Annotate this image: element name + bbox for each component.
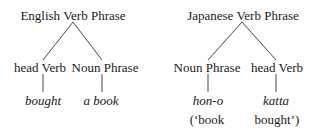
english-word-bought: bought — [25, 94, 61, 108]
japanese-root-label: Japanese Verb Phrase — [187, 9, 299, 23]
japanese-headverb-label: head Verb — [251, 61, 303, 75]
edge-japanese-root-headverb — [242, 22, 276, 60]
japanese-gloss-book: (‘book — [190, 113, 225, 127]
japanese-word-hon-o: hon-o — [193, 94, 223, 108]
edge-english-root-headverb — [43, 22, 73, 60]
english-np-label: Noun Phrase — [72, 61, 139, 75]
japanese-gloss-bought: bought’) — [255, 113, 300, 127]
english-root-label: English Verb Phrase — [20, 9, 125, 23]
japanese-word-katta: katta — [263, 94, 289, 108]
edge-japanese-root-np — [208, 22, 242, 60]
japanese-np-label: Noun Phrase — [174, 61, 241, 75]
edge-english-root-np — [73, 22, 102, 60]
english-word-a-book: a book — [83, 94, 118, 108]
english-headverb-label: head Verb — [14, 61, 66, 75]
